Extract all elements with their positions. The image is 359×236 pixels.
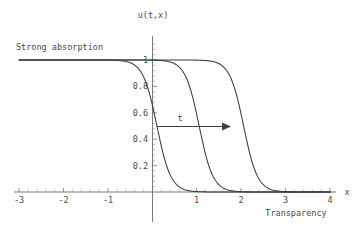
x-tick-label: 1: [194, 195, 199, 205]
arrow-head-icon: [222, 123, 231, 131]
x-tick-label: 3: [283, 195, 288, 205]
y-tick-label: 0.2: [133, 161, 148, 171]
x-tick-label: 2: [238, 195, 243, 205]
x-tick-label: -2: [58, 195, 68, 205]
y-axis: [153, 36, 158, 222]
x-tick-label: 4: [327, 195, 332, 205]
x-axis-title: x: [344, 187, 349, 197]
x-tick-label: -3: [14, 195, 24, 205]
time-arrow-label: t: [177, 113, 182, 123]
time-direction-arrow: [157, 123, 231, 131]
figure-container: -3 -2 -1 1 2 3 4 0.2 0.4 0.6 0.8 1 u(t,x…: [0, 0, 359, 236]
y-axis-title: u(t,x): [138, 10, 169, 20]
x-tick-label: -1: [103, 195, 113, 205]
transparency-label: Transparency: [265, 208, 326, 218]
y-tick-label: 0.6: [133, 108, 148, 118]
plot-area: -3 -2 -1 1 2 3 4 0.2 0.4 0.6 0.8 1 u(t,x…: [0, 0, 359, 236]
y-tick-label: 0.4: [133, 134, 148, 144]
strong-absorption-label: Strong absorption: [16, 42, 103, 52]
